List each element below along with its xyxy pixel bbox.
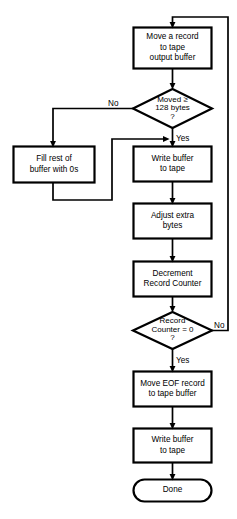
node-move-record-shape xyxy=(134,28,212,69)
flowchart-diagram: Move a record to tape output buffer Move… xyxy=(0,0,237,519)
node-write-buffer-2-shape xyxy=(134,429,212,463)
node-fill-zeros-shape xyxy=(14,147,95,183)
node-adjust-extra-shape xyxy=(134,204,212,239)
node-counter-zero-shape xyxy=(133,312,212,349)
node-move-eof-shape xyxy=(134,372,212,407)
node-moved-128-shape xyxy=(133,89,212,128)
edge-label-counter-no: No xyxy=(214,321,224,330)
edge-label-counter-yes: Yes xyxy=(176,356,189,365)
node-done-shape xyxy=(134,480,212,502)
node-decrement-counter-shape xyxy=(134,262,212,297)
flowchart-canvas xyxy=(0,0,237,519)
node-write-buffer-1-shape xyxy=(134,147,212,182)
edge-label-moved-no: No xyxy=(108,99,118,108)
edge-label-moved-yes: Yes xyxy=(176,134,189,143)
